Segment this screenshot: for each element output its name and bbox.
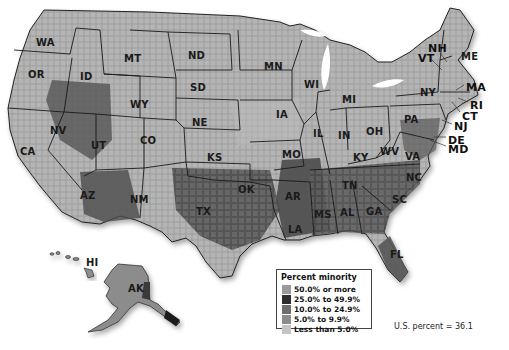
state-label-az: AZ [80, 191, 95, 201]
state-label-ks: KS [207, 153, 222, 163]
state-label-ar: AR [285, 192, 301, 202]
state-label-ne: NE [192, 118, 208, 128]
state-label-nc: NC [406, 173, 422, 183]
legend-title: Percent minority [281, 273, 367, 282]
state-label-al: AL [340, 208, 355, 218]
state-label-ky: KY [353, 153, 368, 163]
state-label-md: MD [448, 144, 468, 155]
state-label-tx: TX [196, 207, 211, 217]
state-label-tn: TN [342, 181, 358, 191]
state-label-mo: MO [282, 150, 301, 160]
state-label-nj: NJ [454, 121, 468, 132]
state-label-la: LA [288, 225, 303, 235]
state-label-ma: MA [466, 82, 486, 93]
state-label-sc: SC [392, 195, 407, 205]
state-label-co: CO [140, 136, 156, 146]
legend-item: 25.0% to 49.9% [281, 294, 367, 304]
legend-swatch [282, 325, 291, 334]
legend-item: 10.0% to 24.9% [281, 304, 367, 314]
legend-label: 25.0% to 49.9% [294, 295, 360, 304]
state-label-wa: WA [36, 38, 55, 48]
state-label-ca: CA [20, 147, 35, 157]
state-label-nd: ND [188, 51, 205, 61]
state-label-oh: OH [366, 127, 383, 137]
legend-swatch [282, 305, 291, 314]
legend-label: 5.0% to 9.9% [294, 315, 350, 324]
state-label-ms: MS [314, 210, 332, 220]
us-percent-footnote: U.S. percent = 36.1 [394, 322, 473, 331]
state-label-ga: GA [366, 207, 382, 217]
legend-swatch [282, 285, 291, 294]
contiguous-us [8, 8, 478, 282]
state-label-ia: IA [276, 110, 288, 120]
legend-item: 50.0% or more [281, 284, 367, 294]
legend-swatch [282, 295, 291, 304]
legend-item: 5.0% to 9.9% [281, 314, 367, 324]
state-label-id: ID [80, 72, 92, 82]
state-label-ak: AK [128, 284, 144, 294]
state-label-pa: PA [404, 115, 419, 125]
alaska [88, 264, 180, 332]
state-label-ok: OK [238, 185, 255, 195]
legend: Percent minority 50.0% or more 25.0% to … [276, 269, 372, 329]
state-label-wv: WV [380, 147, 399, 157]
state-label-fl: FL [390, 250, 404, 260]
state-label-mi: MI [342, 95, 356, 105]
state-label-il: IL [313, 129, 324, 139]
state-label-in: IN [338, 131, 351, 141]
state-label-hi: HI [86, 258, 99, 268]
legend-item: Less than 5.0% [281, 324, 367, 334]
state-label-ny: NY [420, 88, 436, 98]
state-label-ut: UT [91, 141, 106, 151]
legend-swatch [282, 315, 291, 324]
state-label-or: OR [28, 70, 45, 80]
state-label-sd: SD [190, 83, 206, 93]
state-label-va: VA [405, 152, 420, 162]
state-label-mt: MT [124, 54, 141, 64]
legend-label: 10.0% to 24.9% [294, 305, 360, 314]
state-label-wi: WI [304, 80, 319, 90]
state-label-me: ME [461, 52, 478, 62]
legend-label: Less than 5.0% [294, 325, 358, 334]
legend-label: 50.0% or more [294, 285, 356, 294]
state-label-wy: WY [130, 100, 149, 110]
state-label-vt: VT [418, 53, 434, 64]
state-label-nv: NV [50, 126, 67, 136]
state-label-mn: MN [264, 62, 283, 72]
state-label-nm: NM [130, 195, 149, 205]
